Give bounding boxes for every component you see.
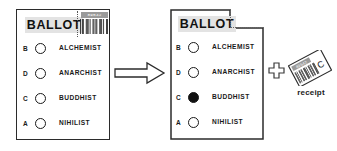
option-name: ALCHEMIST [59,44,102,51]
ballot-option-row[interactable]: A NIHILIST [170,112,264,137]
option-letter: A [176,119,181,126]
barcode-number: 89542 [81,12,108,18]
option-bullet[interactable] [35,68,46,79]
tear-line-vertical [230,9,231,28]
plus-icon [268,62,285,79]
ballot-option-row[interactable]: B ALCHEMIST [170,37,264,62]
ballot-title: BALLOT [178,16,236,32]
option-bullet[interactable] [188,67,199,78]
ballot-options-list: B ALCHEMIST D ANARCHIST C BUDDHIST A NIH… [17,38,109,138]
option-letter: A [23,120,28,127]
ballot-option-row[interactable]: B ALCHEMIST [17,38,109,63]
option-name: NIHILIST [59,119,90,126]
receipt-barcode-tag: 89542 C [288,50,332,86]
barcode-remnant [231,28,263,35]
option-name: BUDDHIST [212,93,250,100]
option-letter: D [23,70,28,77]
ballot-before-voting: BALLOT 89542 B ALCHEMIST D ANARCHIST C B… [16,9,110,140]
receipt-caption: receipt [288,88,334,97]
option-bullet[interactable] [35,43,46,54]
option-bullet[interactable] [188,42,199,53]
barcode-bars [80,19,110,34]
transform-arrow-icon [114,60,166,86]
option-letter: D [176,69,181,76]
option-bullet-selected[interactable] [188,92,199,103]
ballot-option-row[interactable]: C BUDDHIST [170,87,264,112]
option-name: ALCHEMIST [212,43,255,50]
option-letter: B [23,45,28,52]
option-letter: C [23,95,28,102]
ballot-options-list: B ALCHEMIST D ANARCHIST C BUDDHIST A NIH… [170,37,264,137]
option-bullet[interactable] [188,117,199,128]
ballot-option-row[interactable]: D ANARCHIST [17,63,109,88]
option-letter: C [176,94,181,101]
ballot-barcode-stub: 89542 [77,11,110,37]
option-name: ANARCHIST [212,68,255,75]
ballot-option-row[interactable]: C BUDDHIST [17,88,109,113]
option-bullet[interactable] [35,93,46,104]
receipt-group: 89542 C receipt [288,50,334,102]
option-name: BUDDHIST [59,94,97,101]
diagram-canvas: BALLOT 89542 B ALCHEMIST D ANARCHIST C B… [0,0,337,151]
ballot-after-voting: BALLOT B ALCHEMIST D ANARCHIST C BUDDHI [170,9,264,140]
ballot-option-row[interactable]: D ANARCHIST [170,62,264,87]
ballot-title: BALLOT [25,17,83,33]
ballot-option-row[interactable]: A NIHILIST [17,113,109,138]
option-name: NIHILIST [212,118,243,125]
option-letter: B [176,44,181,51]
option-bullet[interactable] [35,118,46,129]
option-name: ANARCHIST [59,69,102,76]
